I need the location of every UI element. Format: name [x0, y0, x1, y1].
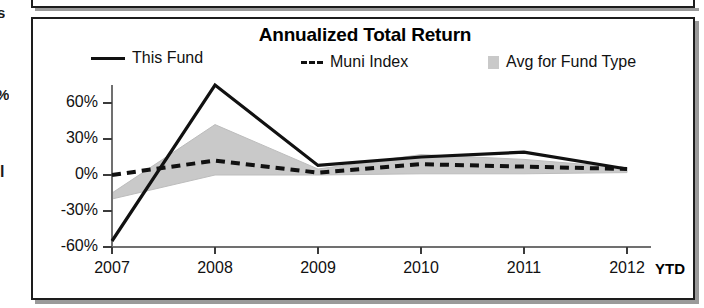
x-tick-label: 2007: [74, 259, 150, 277]
y-tick-label: 0%: [32, 165, 98, 183]
panel-above-fragment: [31, 0, 695, 8]
edge-fragment-percent: %: [0, 86, 9, 103]
x-tick-label: 2011: [486, 259, 562, 277]
y-tick-label: 30%: [32, 129, 98, 147]
edge-fragment-top: s: [0, 4, 5, 21]
plot-area: 60%30%0%-30%-60% 20072008200920102011201…: [33, 19, 697, 302]
x-tick-label: 2012: [589, 259, 665, 277]
x-tick-label: 2009: [280, 259, 356, 277]
chart-panel-shadow-right: [695, 21, 699, 304]
y-tick-label: -60%: [32, 237, 98, 255]
x-axis-ytd-label: YTD: [655, 260, 685, 277]
x-tick-label: 2008: [177, 259, 253, 277]
y-tick-label: 60%: [32, 93, 98, 111]
chart-panel-shadow-bottom: [35, 300, 699, 304]
chart-panel: Annualized Total Return This Fund Muni I…: [31, 17, 695, 300]
x-tick-label: 2010: [383, 259, 459, 277]
edge-fragment-bar: l: [0, 163, 4, 181]
panel-above-shadow: [35, 8, 699, 11]
y-tick-label: -30%: [32, 201, 98, 219]
